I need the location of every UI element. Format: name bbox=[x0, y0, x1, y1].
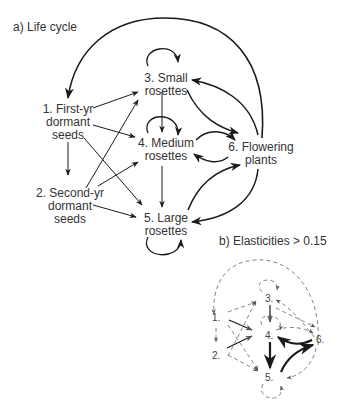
panel-a-title: a) Life cycle bbox=[13, 20, 77, 34]
b-node-6: 6. bbox=[316, 334, 324, 345]
edge-2-4 bbox=[98, 162, 138, 186]
edge-3-3 bbox=[147, 49, 178, 66]
edge-6-5 bbox=[192, 169, 258, 222]
b-node-1: 1. bbox=[212, 312, 220, 323]
node-3-small-rosettes: 3. Small rosettes bbox=[136, 72, 196, 98]
node-label: seeds bbox=[38, 129, 98, 142]
b-node-2: 2. bbox=[212, 350, 220, 361]
edge-5-6 bbox=[188, 165, 240, 210]
b-node-3: 3. bbox=[265, 293, 273, 304]
node-2-second-yr-dormant-seeds: 2. Second-yr dormant seeds bbox=[34, 187, 106, 226]
node-1-first-yr-dormant-seeds: 1. First-yr dormant seeds bbox=[38, 103, 98, 142]
edge-4-4 bbox=[147, 117, 178, 135]
b-node-5: 5. bbox=[265, 372, 273, 383]
b-node-4: 4. bbox=[265, 330, 273, 341]
node-label: rosettes bbox=[136, 85, 196, 98]
node-label: rosettes bbox=[136, 225, 196, 238]
edge-4-6 bbox=[196, 132, 235, 140]
edge-5-5 bbox=[146, 237, 181, 255]
edge-6-4 bbox=[194, 154, 228, 162]
node-label: rosettes bbox=[134, 150, 198, 163]
edge-1-3 bbox=[93, 92, 138, 108]
panel-b-title: b) Elasticities > 0.15 bbox=[219, 234, 327, 248]
node-label: plants bbox=[228, 154, 294, 167]
node-6-flowering-plants: 6. Flowering plants bbox=[228, 141, 294, 167]
node-label: seeds bbox=[34, 213, 106, 226]
edge-6-3 bbox=[192, 80, 258, 135]
node-5-large-rosettes: 5. Large rosettes bbox=[136, 212, 196, 238]
edge-1-4 bbox=[93, 125, 135, 137]
node-4-medium-rosettes: 4. Medium rosettes bbox=[134, 137, 198, 163]
